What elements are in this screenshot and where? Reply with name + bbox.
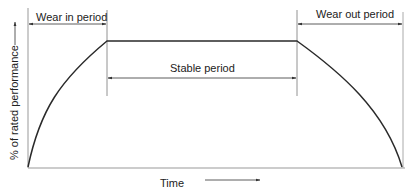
performance-curve <box>28 41 402 167</box>
x-axis-label: Time <box>160 177 184 189</box>
wear-out-label: Wear out period <box>316 8 394 20</box>
stable-label: Stable period <box>170 62 235 74</box>
lifecycle-diagram: Wear in period Wear out period Stable pe… <box>0 0 416 192</box>
y-axis-label: % of rated performance <box>8 45 20 160</box>
wear-in-label: Wear in period <box>36 11 107 23</box>
